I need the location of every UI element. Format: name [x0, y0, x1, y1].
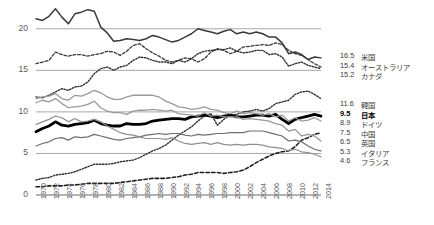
- x-tick-label: 1998: [220, 183, 229, 199]
- x-tick-label: 1982: [117, 183, 126, 199]
- x-tick-label: 1972: [52, 183, 61, 199]
- x-tick-label: 1978: [91, 183, 100, 199]
- legend-value: 8.9: [340, 118, 357, 127]
- legend-value: 5.3: [340, 147, 357, 156]
- x-tick-label: 1992: [182, 183, 191, 199]
- y-tick-label: 20: [4, 23, 28, 33]
- x-tick-label: 1996: [207, 183, 216, 199]
- x-tick-label: 1986: [143, 183, 152, 199]
- y-tick-label: 5: [4, 147, 28, 157]
- x-tick-label: 1980: [104, 183, 113, 199]
- legend-value: 4.6: [340, 156, 357, 165]
- x-tick-label: 1994: [194, 183, 203, 199]
- legend-value: 16.5: [340, 51, 357, 60]
- series-line-9: [36, 116, 321, 157]
- legend-value: 6.5: [340, 137, 357, 146]
- x-tick-label: 1990: [169, 183, 178, 199]
- series-line-4: [36, 114, 321, 131]
- legend-value: 9.5: [340, 109, 357, 118]
- legend-value: 11.6: [340, 99, 357, 108]
- x-tick-label: 1974: [65, 183, 74, 199]
- legend-label: カナダ: [361, 70, 382, 81]
- x-tick-label: 1984: [130, 183, 139, 199]
- gridlines: [36, 29, 321, 195]
- x-tick-label: 1988: [156, 183, 165, 199]
- series-line-0: [36, 9, 321, 60]
- y-tick-label: 15: [4, 64, 28, 74]
- x-tick-label: 2006: [272, 183, 281, 199]
- series-line-5: [36, 90, 321, 121]
- y-tick-label: 10: [4, 106, 28, 116]
- legend-label: フランス: [361, 156, 389, 167]
- x-tick-label: 2008: [285, 183, 294, 199]
- x-tick-label: 1976: [78, 183, 87, 199]
- x-tick-label: 2002: [246, 183, 255, 199]
- legend-value: 15.4: [340, 61, 357, 70]
- x-tick-label: 2012: [311, 183, 320, 199]
- x-tick-label: 2000: [233, 183, 242, 199]
- x-tick-label: 2004: [259, 183, 268, 199]
- legend-value: 7.5: [340, 128, 357, 137]
- series-line-2: [36, 48, 321, 98]
- legend-value: 15.2: [340, 70, 357, 79]
- series-lines: [36, 9, 321, 187]
- x-tick-label: 1970: [39, 183, 48, 199]
- x-tick-label: 2010: [298, 183, 307, 199]
- x-tick-label: 2014: [324, 183, 333, 199]
- chart-root: 20151050 1970197219741976197819801982198…: [0, 0, 434, 225]
- y-tick-label: 0: [4, 189, 28, 199]
